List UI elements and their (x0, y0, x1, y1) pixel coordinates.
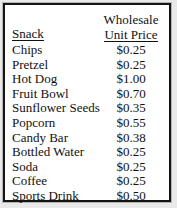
cell-snack-name: Hot Dog (12, 72, 100, 87)
table-row: Bottled Water$0.25 (12, 145, 162, 160)
table-row: Hot Dog$1.00 (12, 72, 162, 87)
cell-unit-price: $0.70 (100, 87, 162, 102)
cell-unit-price: $0.35 (100, 101, 162, 116)
table-row: Sports Drink$0.50 (12, 189, 162, 204)
cell-snack-name: Candy Bar (12, 131, 100, 146)
table-row: Soda$0.25 (12, 160, 162, 175)
cell-unit-price: $0.25 (100, 160, 162, 175)
table-row: Pretzel$0.25 (12, 58, 162, 73)
cell-unit-price: $0.50 (100, 189, 162, 204)
cell-snack-name: Coffee (12, 174, 100, 189)
cell-unit-price: $0.25 (100, 58, 162, 73)
cell-unit-price: $0.25 (100, 43, 162, 58)
cell-snack-name: Soda (12, 160, 100, 175)
snack-price-table: Snack Wholesale Unit Price Chips$0.25Pre… (3, 3, 171, 202)
table-body: Chips$0.25Pretzel$0.25Hot Dog$1.00Fruit … (12, 43, 162, 204)
table-row: Popcorn$0.55 (12, 116, 162, 131)
table-header-row: Snack Wholesale Unit Price (12, 9, 162, 42)
table-row: Candy Bar$0.38 (12, 131, 162, 146)
cell-snack-name: Sunflower Seeds (12, 101, 100, 116)
table-row: Sunflower Seeds$0.35 (12, 101, 162, 116)
cell-snack-name: Popcorn (12, 116, 100, 131)
header-label-wholesale: Wholesale (100, 13, 162, 27)
cell-unit-price: $0.55 (100, 116, 162, 131)
cell-snack-name: Fruit Bowl (12, 87, 100, 102)
cell-snack-name: Sports Drink (12, 189, 100, 204)
table-row: Fruit Bowl$0.70 (12, 87, 162, 102)
header-cell-snack: Snack (12, 9, 100, 42)
table-row: Coffee$0.25 (12, 174, 162, 189)
table-row: Chips$0.25 (12, 43, 162, 58)
cell-snack-name: Bottled Water (12, 145, 100, 160)
cell-unit-price: $1.00 (100, 72, 162, 87)
cell-unit-price: $0.25 (100, 145, 162, 160)
cell-unit-price: $0.25 (100, 174, 162, 189)
cell-snack-name: Pretzel (12, 58, 100, 73)
header-cell-price: Wholesale Unit Price (100, 13, 162, 42)
table-inner: Snack Wholesale Unit Price Chips$0.25Pre… (5, 5, 169, 200)
header-label-snack: Snack (12, 27, 44, 41)
cell-unit-price: $0.38 (100, 131, 162, 146)
header-label-unit-price: Unit Price (104, 28, 157, 42)
cell-snack-name: Chips (12, 43, 100, 58)
